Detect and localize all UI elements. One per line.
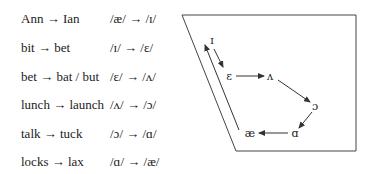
vowel-label-e: ɛ (226, 70, 232, 83)
vowel-space-trapezoid (182, 15, 356, 151)
vowel-label-ae: æ (245, 127, 255, 140)
vowel-label-o: ɔ (312, 100, 318, 113)
arrow-i-to-e (214, 49, 223, 67)
vowel-label-v: ʌ (266, 70, 274, 83)
arrow-o-to-a (299, 112, 312, 128)
arrow-ae-to-i (205, 45, 239, 130)
vowel-label-a: ɑ (291, 127, 298, 140)
vowel-chart-diagram: ɪ ɛ ʌ ɔ ɑ æ (0, 0, 371, 174)
arrow-v-to-o (278, 80, 310, 102)
vowel-label-i: ɪ (210, 34, 214, 47)
